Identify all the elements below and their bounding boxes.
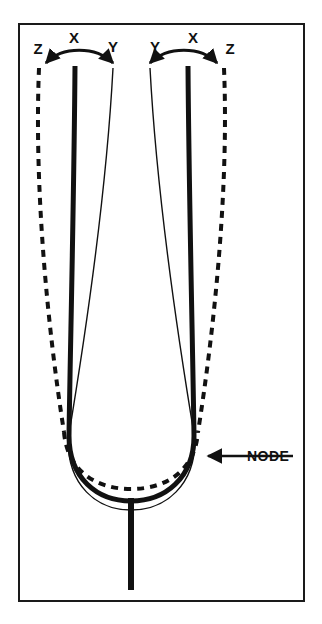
figure-container: Z X Y Y X Z NODE [0,0,322,624]
label-y-left: Y [108,38,118,55]
label-y-right: Y [150,38,160,55]
label-z-right: Z [225,40,234,57]
page-background [0,0,322,624]
tuning-fork-diagram: Z X Y Y X Z NODE [0,0,322,624]
label-x-left: X [69,29,79,46]
label-x-right: X [188,29,198,46]
label-z-left: Z [33,40,42,57]
label-node: NODE [247,448,289,464]
